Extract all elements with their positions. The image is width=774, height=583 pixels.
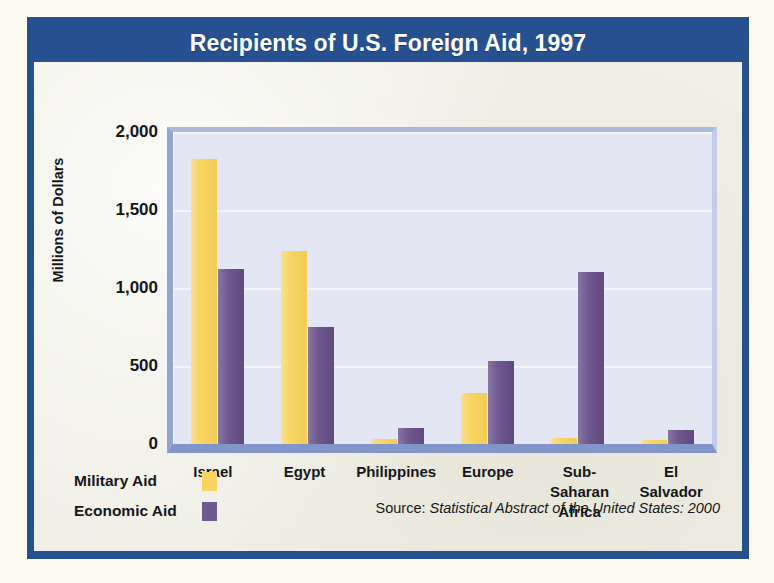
source-prefix: Source: (376, 500, 430, 516)
y-axis-tick-1000: 1,000 (80, 278, 158, 298)
bar-economic-europe (488, 361, 514, 444)
y-axis-tick-2000: 2,000 (80, 122, 158, 142)
y-axis-tick-labels: 2,0001,5001,0005000 (80, 62, 158, 458)
chart-panel: Millions of Dollars 2,0001,5001,0005000 … (34, 62, 742, 551)
bar-group-sub-saharan-africa (532, 132, 622, 444)
bars-layer (173, 132, 712, 444)
bar-economic-israel (218, 269, 244, 445)
bar-military-philippines (371, 439, 397, 444)
legend-label-economic: Economic Aid (74, 502, 202, 520)
plot-area (167, 127, 717, 453)
legend-item-military: Military Aid (74, 466, 728, 496)
bar-economic-el-salvador (668, 430, 694, 444)
bar-military-egypt (281, 251, 307, 444)
bar-military-sub-saharan-africa (551, 438, 577, 444)
bar-military-europe (461, 393, 487, 444)
y-axis-tick-1500: 1,500 (80, 200, 158, 220)
bar-group-el-salvador (622, 132, 712, 444)
chart-figure: Recipients of U.S. Foreign Aid, 1997 Mil… (27, 17, 749, 559)
bar-group-philippines (353, 132, 443, 444)
bar-group-europe (442, 132, 532, 444)
y-axis-tick-500: 500 (80, 356, 158, 376)
legend-swatch-economic-icon (202, 502, 217, 521)
source-title: Statistical Abstract of the United State… (430, 500, 720, 516)
legend: Military Aid Economic Aid Source: Statis… (74, 466, 728, 546)
y-axis-label: Millions of Dollars (50, 130, 66, 310)
bar-economic-philippines (398, 428, 424, 444)
plot-inner (173, 132, 712, 444)
source-note: Source: Statistical Abstract of the Unit… (376, 500, 720, 516)
legend-swatch-military-icon (202, 472, 217, 491)
title-banner: Recipients of U.S. Foreign Aid, 1997 (34, 24, 742, 62)
bar-group-israel (173, 132, 263, 444)
legend-label-military: Military Aid (74, 472, 202, 490)
y-axis-tick-0: 0 (80, 434, 158, 454)
bar-group-egypt (263, 132, 353, 444)
bar-military-el-salvador (641, 440, 667, 444)
chart-plot-region: Millions of Dollars 2,0001,5001,0005000 … (34, 62, 742, 458)
page-title: Recipients of U.S. Foreign Aid, 1997 (190, 30, 586, 57)
bar-economic-egypt (308, 327, 334, 444)
bar-economic-sub-saharan-africa (578, 272, 604, 444)
bar-military-israel (191, 159, 217, 444)
